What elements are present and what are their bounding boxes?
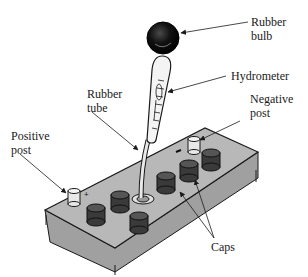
label-hydrometer: Hydrometer: [231, 69, 289, 83]
cap: [202, 149, 220, 171]
label-negative-post: Negative post: [250, 92, 293, 120]
label-positive-post: Positive post: [11, 129, 50, 157]
label-rubber-bulb: Rubber bulb: [251, 15, 286, 43]
hydrometer: [147, 56, 171, 143]
rubber-bulb: [147, 22, 179, 54]
cap: [180, 160, 198, 182]
cap: [87, 204, 105, 226]
label-rubber-tube: Rubber tube: [87, 87, 122, 115]
label-caps: Caps: [211, 240, 235, 254]
cap: [157, 172, 175, 194]
cap: [111, 191, 129, 213]
svg-text:+: +: [84, 190, 89, 199]
cap: [130, 212, 148, 234]
